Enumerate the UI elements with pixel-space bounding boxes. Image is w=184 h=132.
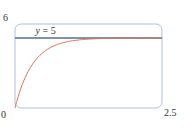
y-tick-max: 6 [3,12,8,23]
asymptote-label-rest: = 5 [40,25,56,36]
chart: y = 5 6 0 2.5 [0,0,184,132]
x-tick-min: 0 [1,109,6,120]
x-tick-max: 2.5 [164,107,177,118]
curve-line [15,38,162,108]
asymptote-label: y = 5 [35,25,56,36]
viewing-frame [15,24,162,108]
